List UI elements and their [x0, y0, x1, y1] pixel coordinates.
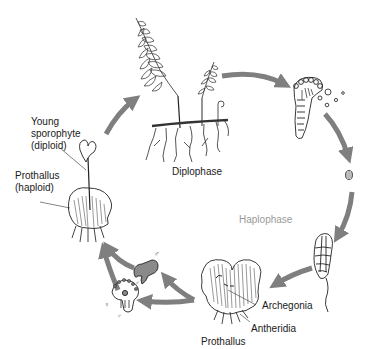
germinating-spore-illustration	[314, 234, 333, 312]
mature-sporophyte-illustration	[136, 18, 229, 162]
label-line: Prothallus	[15, 170, 59, 182]
prothallus-haploid-leader	[40, 202, 70, 208]
spore-illustration	[346, 171, 353, 180]
antheridia-leader	[240, 314, 250, 322]
arrow-prothallus-to-archegonium	[144, 300, 194, 302]
arrow-germinating-to-prothallus	[276, 268, 312, 284]
svg-text:♂: ♂	[117, 313, 122, 319]
label-archegonia: Archegonia	[262, 300, 313, 312]
arrow-mature-to-sporangium	[222, 74, 284, 84]
spores	[318, 89, 344, 107]
arrow-prothallus-to-antheridium	[166, 278, 194, 300]
male-symbol: ♂	[154, 250, 159, 257]
label-line: Young	[31, 116, 80, 128]
arrow-sporangium-to-spore	[325, 114, 348, 156]
label-diplophase: Diplophase	[172, 166, 222, 178]
label-line: (haploid)	[15, 182, 59, 194]
label-line: sporophyte	[31, 128, 80, 140]
arrow-antheridium-to-prothallus	[108, 248, 134, 268]
label-antheridia: Antheridia	[251, 323, 296, 335]
label-young-sporophyte: Young sporophyte (diploid)	[31, 116, 80, 152]
label-haplophase: Haplophase	[239, 214, 292, 226]
arrow-spore-to-germinating	[338, 192, 352, 236]
antheridium-illustration: ♂ ♂	[134, 250, 159, 286]
label-prothallus: Prothallus	[201, 336, 245, 348]
arrow-sporophyte-to-mature	[106, 100, 134, 134]
archegonium-illustration: ♀ ♂	[104, 278, 139, 319]
label-line: (diploid)	[31, 140, 80, 152]
female-symbol: ♀	[104, 301, 109, 308]
label-prothallus-haploid: Prothallus (haploid)	[15, 170, 59, 194]
prothallus-illustration	[201, 260, 261, 324]
